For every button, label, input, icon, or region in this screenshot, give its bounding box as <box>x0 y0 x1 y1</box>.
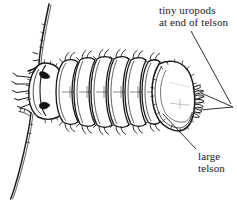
annotation-tiny-uropods: tiny uropods at end of telson <box>159 5 228 28</box>
pereon-segments <box>56 50 160 135</box>
annotation-line: tiny uropods <box>159 5 228 17</box>
annotation-line: telson <box>198 163 225 175</box>
annotation-line: large <box>198 151 225 163</box>
annotation-large-telson: large telson <box>198 151 225 174</box>
isopod-figure: tiny uropods at end of telson large tels… <box>0 0 237 201</box>
annotation-line: at end of telson <box>159 17 228 29</box>
